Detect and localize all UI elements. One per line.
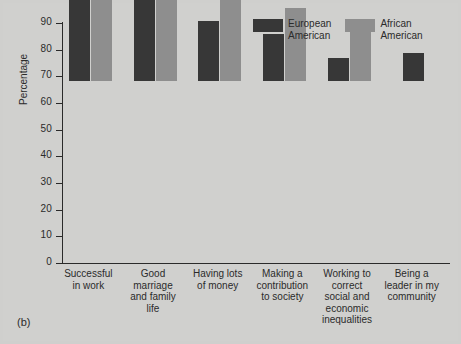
y-axis-tick-label: 50 <box>40 123 52 134</box>
y-axis-tick: 20 <box>56 210 62 211</box>
x-axis-category-label: Making a contribution to society <box>250 268 315 303</box>
bar <box>263 34 284 81</box>
x-axis-category-label: Successful in work <box>56 268 121 291</box>
legend-entry: European American <box>253 18 331 41</box>
y-axis-tick-label: 40 <box>40 149 52 160</box>
bar <box>134 0 155 81</box>
bar <box>198 21 219 81</box>
x-axis-category-label: Being a leader in my community <box>379 268 444 303</box>
legend-color-swatch <box>345 19 375 32</box>
y-axis-tick-label: 70 <box>40 69 52 80</box>
bar <box>69 0 90 81</box>
y-axis-tick: 40 <box>56 156 62 157</box>
bar-group <box>62 0 127 81</box>
y-axis-tick-label: 30 <box>40 176 52 187</box>
legend-label: European American <box>288 18 331 41</box>
bar <box>403 53 424 81</box>
legend-label: African American <box>380 18 422 41</box>
y-axis-tick-label: 90 <box>40 16 52 27</box>
bar-chart-plot: Percentage 0102030405060708090 Successfu… <box>0 0 461 344</box>
bar <box>91 0 112 81</box>
x-axis-category-label: Having lots of money <box>185 268 250 291</box>
chart-legend: European AmericanAfrican American <box>253 18 423 41</box>
bar <box>156 0 177 81</box>
legend-entry: African American <box>345 18 422 41</box>
y-axis-tick-label: 80 <box>40 43 52 54</box>
y-axis-tick-label: 0 <box>46 256 52 267</box>
y-axis-tick: 0 <box>56 263 62 264</box>
y-axis-tick: 50 <box>56 130 62 131</box>
panel-caption: (b) <box>17 316 30 328</box>
y-axis-tick: 30 <box>56 183 62 184</box>
legend-color-swatch <box>253 19 283 32</box>
x-axis-category-label: Working to correct social and economic i… <box>315 268 380 326</box>
y-axis-tick: 60 <box>56 103 62 104</box>
bar <box>328 58 349 81</box>
y-axis-title: Percentage <box>18 91 29 105</box>
bar-group <box>191 0 256 81</box>
y-axis-tick: 10 <box>56 236 62 237</box>
y-axis-tick-label: 10 <box>40 229 52 240</box>
y-axis-tick-label: 60 <box>40 96 52 107</box>
x-axis-line <box>62 263 450 264</box>
y-axis-tick-label: 20 <box>40 203 52 214</box>
figure-panel: Percentage 0102030405060708090 Successfu… <box>0 0 461 344</box>
bar <box>220 0 241 81</box>
bar-group <box>127 0 192 81</box>
x-axis-category-label: Good marriage and family life <box>121 268 186 314</box>
